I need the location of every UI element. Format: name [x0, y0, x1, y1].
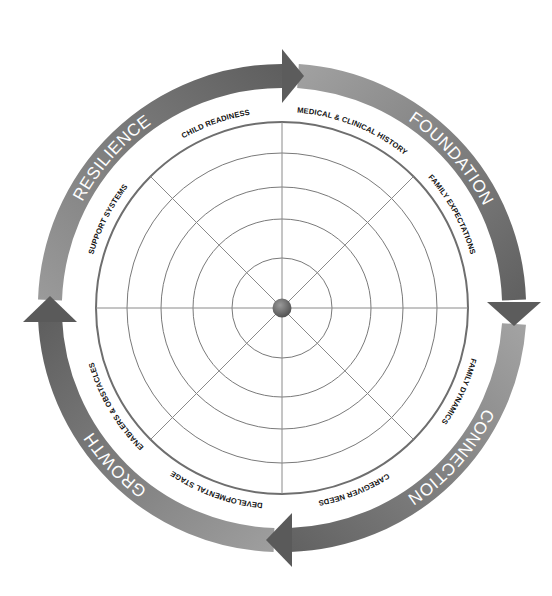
- center-dot: [273, 299, 292, 318]
- phase-label-resilience: RESILIENCE: [69, 111, 154, 204]
- dimension-label-developmental-stage: DEVELOPMENTAL STAGE: [169, 469, 263, 510]
- phase-label-connection: CONNECTION: [404, 406, 498, 509]
- dimension-label-caregiver-needs: CAREGIVER NEEDS: [318, 471, 391, 507]
- cycle-wheel-diagram: RESILIENCE FOUNDATION GROWTH CONNECTION …: [0, 0, 552, 596]
- arrow-left-icon: [266, 513, 292, 567]
- arrow-down-icon: [487, 302, 541, 326]
- arrow-right-icon: [282, 49, 304, 103]
- arrow-up-icon: [23, 296, 77, 322]
